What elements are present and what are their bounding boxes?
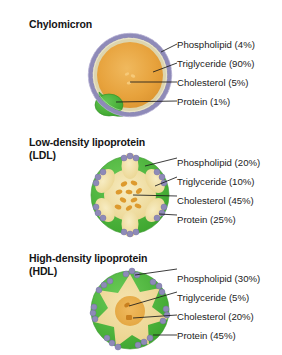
hdl-particle	[83, 265, 179, 355]
label-protein: Protein (45%)	[177, 331, 236, 341]
label-triglyceride: Triglyceride (10%)	[177, 177, 254, 187]
page-title-chylomicron: Chylomicron	[29, 18, 92, 31]
label-cholesterol: Cholesterol (5%)	[177, 78, 248, 88]
ldl-particle	[83, 150, 179, 242]
label-phospholipid: Phospholipid (20%)	[177, 158, 260, 168]
label-cholesterol: Cholesterol (45%)	[177, 196, 254, 206]
panel-ldl: Low-density lipoprotein (LDL)	[0, 118, 282, 240]
label-protein: Protein (1%)	[177, 97, 230, 107]
label-phospholipid: Phospholipid (30%)	[177, 274, 260, 284]
triglyceride-center	[115, 296, 145, 326]
label-triglyceride: Triglyceride (5%)	[177, 293, 249, 303]
label-phospholipid: Phospholipid (4%)	[177, 40, 255, 50]
panel-hdl: High-density lipoprotein (HDL)	[0, 240, 282, 355]
label-protein: Protein (25%)	[177, 215, 236, 225]
label-triglyceride: Triglyceride (90%)	[177, 59, 254, 69]
chylomicron-particle	[83, 30, 179, 122]
panel-chylomicron: Chylomicron	[0, 0, 282, 120]
label-cholesterol: Cholesterol (20%)	[177, 312, 254, 322]
